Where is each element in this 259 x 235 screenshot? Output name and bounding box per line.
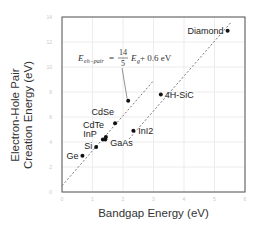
x-tick-label: 2 <box>122 196 125 202</box>
y-axis-label-line1: Electron-Hole Pair <box>9 61 22 169</box>
point-label: Diamond <box>188 26 224 36</box>
y-tick-label: 10 <box>46 64 52 70</box>
fit-lines <box>62 22 231 186</box>
data-point <box>159 93 163 97</box>
data-point <box>113 121 117 125</box>
data-point <box>80 154 84 158</box>
y-tick-label: 14 <box>46 14 52 20</box>
svg-text:+ 0.6 eV: + 0.6 eV <box>140 53 172 63</box>
point-label: Si <box>84 141 92 151</box>
data-point <box>131 129 135 133</box>
point-label: InP <box>83 129 97 139</box>
x-tick-label: 1 <box>91 196 94 202</box>
y-tick-label: 8 <box>49 89 52 95</box>
svg-text:14: 14 <box>119 48 127 57</box>
y-axis-label-line2: Creation Energy (eV) <box>22 61 35 169</box>
data-points <box>80 29 229 158</box>
data-point <box>94 145 98 149</box>
point-labels: GeSiInPGaAsCdTeCdSeInI24H-SiCDiamond <box>66 26 223 161</box>
svg-text:5: 5 <box>121 59 125 68</box>
y-tick-label: 12 <box>46 39 52 45</box>
x-tick-label: 0 <box>61 196 64 202</box>
grid-lines <box>62 17 245 192</box>
lower-fit-line <box>129 22 231 139</box>
y-tick-label: 6 <box>49 114 52 120</box>
point-label: CdSe <box>92 107 115 117</box>
x-tick-label: 6 <box>244 196 247 202</box>
data-point <box>226 29 230 33</box>
svg-text:E: E <box>130 53 137 63</box>
point-label: InI2 <box>138 126 153 136</box>
svg-text:eh−pair: eh−pair <box>84 58 104 64</box>
point-label: GaAs <box>110 138 133 148</box>
point-label: 4H-SiC <box>165 90 195 100</box>
point-label: CdTe <box>83 120 104 130</box>
svg-text:=: = <box>109 53 114 63</box>
x-tick-label: 4 <box>183 196 186 202</box>
y-tick-label: 4 <box>49 139 52 145</box>
svg-text:E: E <box>77 53 84 63</box>
x-axis-label: Bandgap Energy (eV) <box>62 207 245 219</box>
data-point <box>104 135 108 139</box>
y-tick-label: 2 <box>49 164 52 170</box>
point-label: Ge <box>66 151 78 161</box>
x-tick-label: 5 <box>213 196 216 202</box>
x-tick-label: 3 <box>152 196 155 202</box>
y-axis-label: Electron-Hole PairCreation Energy (eV) <box>2 40 42 190</box>
data-point <box>126 99 130 103</box>
equation-annotation: Eeh−pair = 145Eg + 0.6 eV <box>77 48 172 99</box>
y-tick-label: 0 <box>49 189 52 195</box>
